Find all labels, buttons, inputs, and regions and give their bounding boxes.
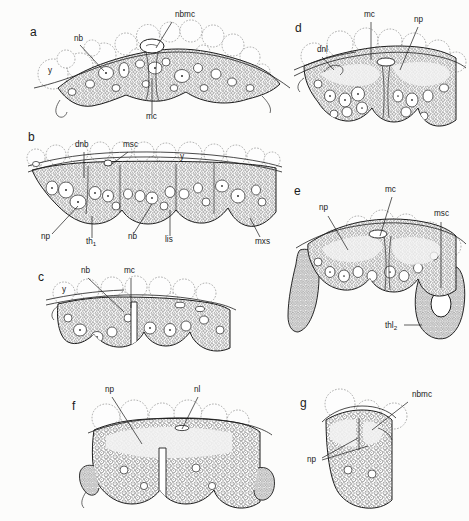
figure-canvas: a b c d e f g nbmc nb y mc dnb msc y np … <box>0 0 469 521</box>
panel-letter-e: e <box>294 184 301 198</box>
panel-letter-a: a <box>30 25 37 39</box>
label-nl-f: nl <box>194 385 201 394</box>
label-mc-a: mc <box>146 112 157 121</box>
label-nb-b: nb <box>128 232 138 241</box>
panel-f <box>79 397 274 508</box>
panel-d-mc-pocket <box>377 58 395 66</box>
label-nb-a: nb <box>74 34 84 43</box>
panel-letter-g: g <box>300 396 307 410</box>
label-np-f: np <box>105 385 115 394</box>
label-dnb-b: dnb <box>75 140 89 149</box>
label-mc-e: mc <box>385 185 396 194</box>
label-dnl-d: dnl <box>317 45 328 54</box>
label-lis-b: lis <box>165 235 173 244</box>
label-mc-c: mc <box>124 266 135 275</box>
panel-b-msc <box>104 160 112 166</box>
label-np-e: np <box>319 203 329 212</box>
panel-letter-b: b <box>28 130 35 144</box>
label-np-g: np <box>307 455 317 464</box>
label-mc-d: mc <box>364 10 375 19</box>
label-nb-c: nb <box>81 266 91 275</box>
label-mxs-b: mxs <box>255 237 270 246</box>
panel-letter-c: c <box>38 270 44 284</box>
label-msc-e: msc <box>434 209 449 218</box>
label-np-b: np <box>41 232 51 241</box>
panel-letter-d: d <box>295 21 302 35</box>
label-msc-b: msc <box>123 140 138 149</box>
scientific-figure: a b c d e f g nbmc nb y mc dnb msc y np … <box>0 0 469 521</box>
panel-f-nl-marker <box>175 425 189 430</box>
label-nbmc-g: nbmc <box>412 390 432 399</box>
panel-e-mc-pocket <box>369 230 387 238</box>
label-nbmc-a: nbmc <box>175 10 195 19</box>
label-np-d: np <box>414 15 424 24</box>
